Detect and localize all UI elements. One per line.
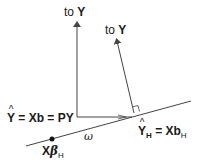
point-xbeta bbox=[50, 137, 55, 142]
label-xbeta-h: XβH bbox=[42, 145, 64, 157]
diagram-canvas bbox=[0, 0, 198, 168]
label-yhat-h: YH = XbH bbox=[138, 125, 187, 137]
label-to-y-1: to Y bbox=[64, 6, 85, 18]
label-omega: ω bbox=[84, 131, 93, 142]
projection-arrow bbox=[117, 41, 134, 113]
label-to-y-2: to Y bbox=[105, 24, 126, 36]
label-yhat: Y = Xb = PY bbox=[7, 112, 74, 124]
